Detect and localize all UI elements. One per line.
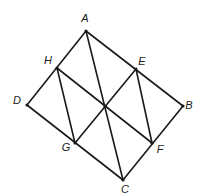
label-b: B xyxy=(185,99,192,111)
label-c: C xyxy=(121,183,129,194)
points-group xyxy=(25,29,184,181)
label-e: E xyxy=(138,55,146,67)
vertex-b xyxy=(181,104,184,107)
label-d: D xyxy=(13,94,21,106)
vertex-a xyxy=(84,29,87,32)
geometry-diagram: ABCDEFGH xyxy=(0,0,204,194)
labels-group: ABCDEFGH xyxy=(13,12,193,194)
vertex-e xyxy=(134,67,137,70)
label-g: G xyxy=(62,141,71,153)
vertex-o xyxy=(103,104,106,107)
vertex-f xyxy=(150,141,153,144)
vertex-g xyxy=(73,141,76,144)
label-f: F xyxy=(157,143,165,155)
vertex-h xyxy=(55,66,58,69)
vertex-d xyxy=(25,103,28,106)
label-h: H xyxy=(44,54,52,66)
label-a: A xyxy=(80,12,88,24)
vertex-c xyxy=(121,178,124,181)
